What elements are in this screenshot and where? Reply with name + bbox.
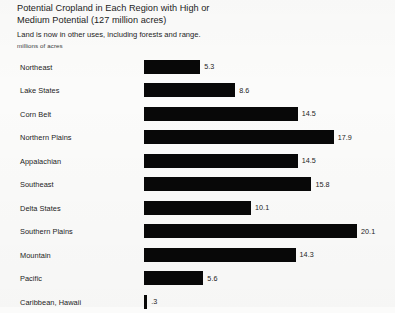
bar-fill: [144, 83, 235, 97]
bar-value-label: 15.8: [315, 180, 329, 189]
bar-value-label: 14.5: [302, 156, 316, 165]
bar-row: Caribbean, Hawaii.3: [0, 290, 395, 313]
bar-row: Southeast15.8: [0, 173, 395, 197]
bar-track: 17.9: [144, 130, 352, 144]
bar-track: 14.5: [144, 107, 316, 121]
bar-track: 5.3: [144, 60, 214, 74]
bar-fill: [144, 60, 200, 74]
bar-track: 10.1: [144, 201, 269, 215]
region-label: Pacific: [20, 274, 42, 283]
chart-header: Potential Cropland in Each Region with H…: [17, 3, 357, 39]
bar-row: Corn Belt14.5: [0, 102, 395, 126]
region-label: Northern Plains: [20, 133, 72, 142]
region-label: Caribbean, Hawaii: [20, 297, 81, 306]
bar-track: 5.6: [144, 271, 217, 285]
bar-track: 15.8: [144, 177, 330, 191]
region-label: Southern Plains: [20, 227, 73, 236]
chart-subtitle: Land is now in other uses, including for…: [17, 30, 357, 40]
bar-fill: [144, 201, 251, 215]
bar-row: Pacific5.6: [0, 267, 395, 291]
bar-fill: [144, 224, 357, 238]
bar-row: Northern Plains17.9: [0, 126, 395, 150]
axis-unit-label: millions of acres: [17, 42, 63, 49]
region-label: Appalachian: [20, 156, 61, 165]
region-label: Southeast: [20, 180, 54, 189]
bar-row: Southern Plains20.1: [0, 220, 395, 244]
bar-fill: [144, 107, 298, 121]
region-label: Corn Belt: [20, 109, 51, 118]
bar-fill: [144, 154, 298, 168]
bar-value-label: 10.1: [255, 203, 269, 212]
bar-value-label: 5.6: [207, 274, 217, 283]
region-label: Northeast: [20, 62, 52, 71]
bar-value-label: 14.3: [300, 250, 314, 259]
bar-value-label: 20.1: [361, 227, 375, 236]
bar-value-label: 17.9: [338, 133, 352, 142]
bar-row: Mountain14.3: [0, 243, 395, 267]
bar-fill: [144, 130, 334, 144]
bar-track: 14.3: [144, 248, 314, 262]
bar-fill: [144, 271, 203, 285]
bar-value-label: .3: [151, 297, 157, 306]
bar-value-label: 5.3: [204, 62, 214, 71]
plot-area: Northeast5.3Lake States8.6Corn Belt14.5N…: [0, 55, 395, 305]
bar-track: 14.5: [144, 154, 316, 168]
bar-fill: [144, 295, 147, 309]
bar-row: Lake States8.6: [0, 79, 395, 103]
region-label: Delta States: [20, 203, 61, 212]
bar-row: Appalachian14.5: [0, 149, 395, 173]
bar-row: Northeast5.3: [0, 55, 395, 79]
bar-row: Delta States10.1: [0, 196, 395, 220]
bar-fill: [144, 248, 296, 262]
bar-fill: [144, 177, 311, 191]
bar-value-label: 14.5: [302, 109, 316, 118]
bar-track: 8.6: [144, 83, 249, 97]
bar-value-label: 8.6: [239, 86, 249, 95]
region-label: Lake States: [20, 86, 59, 95]
bar-track: .3: [144, 295, 157, 309]
chart-title: Potential Cropland in Each Region with H…: [17, 3, 357, 26]
region-label: Mountain: [20, 250, 51, 259]
bar-track: 20.1: [144, 224, 375, 238]
